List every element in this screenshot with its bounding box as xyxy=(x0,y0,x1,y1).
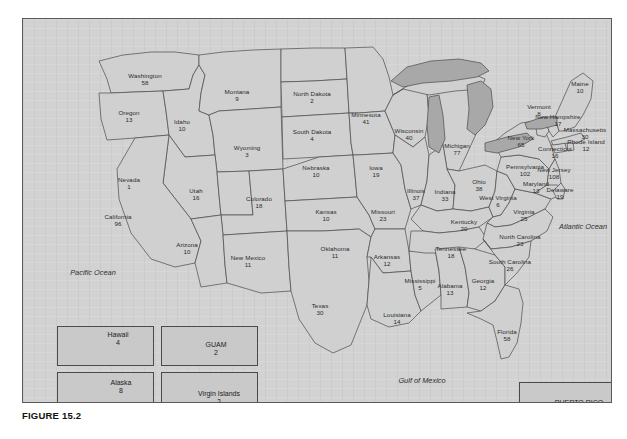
map-panel: Washington58Oregon13Idaho10Montana9Wyomi… xyxy=(22,18,612,403)
ocean-label-gulf-of-mexico: Gulf of Mexico xyxy=(398,376,445,385)
state-shape-south-dakota xyxy=(281,79,349,117)
state-shape-new-mexico xyxy=(223,231,291,293)
state-shape-kansas xyxy=(283,155,357,201)
state-shape-ohio xyxy=(447,165,497,211)
inset-name-hawaii: Hawaii xyxy=(107,331,128,339)
inset-label-virgin-islands: Virgin Islands2 xyxy=(198,390,240,403)
inset-name-alaska: Alaska xyxy=(110,379,131,387)
lake-huron xyxy=(467,81,493,135)
state-shape-texas xyxy=(287,229,371,353)
state-shape-massachusetts xyxy=(551,133,585,145)
inset-box-hawaii xyxy=(57,326,154,366)
ocean-label-atlantic-ocean: Atlantic Ocean xyxy=(559,222,607,231)
state-shape-utah xyxy=(217,171,253,215)
inset-value-alaska: 8 xyxy=(110,387,131,395)
state-shape-nebraska xyxy=(282,113,353,159)
state-shape-kentucky xyxy=(411,205,493,233)
figure-container: Washington58Oregon13Idaho10Montana9Wyomi… xyxy=(0,0,627,439)
inset-label-puerto-rico: PUERTO RICO9 xyxy=(555,399,603,403)
inset-value-virgin-islands: 2 xyxy=(198,398,240,403)
state-shape-minnesota xyxy=(345,47,393,113)
inset-label-alaska: Alaska8 xyxy=(110,379,131,396)
state-shape-washington xyxy=(99,52,199,93)
state-shape-wyoming xyxy=(209,107,283,172)
inset-label-guam: GUAM2 xyxy=(206,341,227,358)
ocean-label-pacific-ocean: Pacific Ocean xyxy=(70,268,116,277)
state-shape-rhode-island xyxy=(567,142,574,151)
inset-name-virgin-islands: Virgin Islands xyxy=(198,390,240,398)
state-shape-montana xyxy=(199,49,281,115)
figure-caption: FIGURE 15.2 xyxy=(22,410,81,421)
state-shape-oregon xyxy=(99,91,169,140)
inset-label-hawaii: Hawaii4 xyxy=(107,331,128,348)
inset-name-puerto-rico: PUERTO RICO xyxy=(555,399,603,403)
inset-value-guam: 2 xyxy=(206,349,227,357)
inset-value-hawaii: 4 xyxy=(107,339,128,347)
inset-box-alaska xyxy=(57,372,154,403)
state-shape-north-dakota xyxy=(281,48,347,82)
inset-name-guam: GUAM xyxy=(206,341,227,349)
state-shape-maine xyxy=(555,73,593,131)
